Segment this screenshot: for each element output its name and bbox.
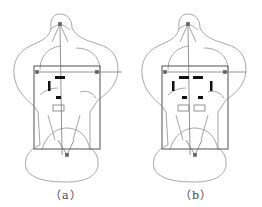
marker-right	[96, 71, 99, 74]
electrode-small-right	[198, 96, 203, 99]
electrode-outlined-right	[194, 105, 205, 111]
marker-bottom	[66, 154, 69, 157]
torso-outline	[142, 14, 246, 182]
panel-b-torso-diagram	[142, 14, 246, 182]
electrode-small-left	[182, 96, 187, 99]
electrode-horizontal	[55, 76, 65, 79]
electrode-outlined	[53, 105, 64, 111]
marker-left	[36, 71, 39, 74]
marker-left	[164, 71, 167, 74]
right-clavicle-line	[188, 24, 196, 42]
electrode-vertical-right	[210, 81, 213, 91]
electrode-small	[56, 96, 61, 99]
right-pec-curve	[204, 48, 228, 70]
panel-a-torso-diagram	[14, 14, 122, 182]
caption-a: （a）	[50, 186, 82, 202]
right-abdomen-line	[73, 115, 80, 140]
panel-b-electrodes	[172, 76, 213, 111]
pelvis-arc	[170, 128, 218, 150]
electrode-horizontal-left	[179, 76, 189, 79]
panel-a-markers	[36, 23, 99, 157]
lower-midline-right	[67, 140, 74, 155]
right-clavicle-line	[60, 24, 68, 42]
electrode-vertical-left	[172, 81, 175, 91]
left-clavicle-line	[52, 24, 60, 42]
lower-midline-left	[186, 140, 195, 155]
right-rib-curve	[208, 91, 224, 98]
panel-a-electrodes	[48, 76, 65, 111]
left-clavicle-line	[180, 24, 188, 42]
lower-midline-left	[58, 140, 67, 155]
pelvis-arc	[42, 128, 90, 150]
midline	[188, 24, 190, 155]
marker-top	[187, 23, 190, 26]
electrode-outlined-left	[178, 105, 189, 111]
marker-bottom	[194, 154, 197, 157]
figure-canvas	[0, 0, 262, 207]
right-pec-curve	[76, 48, 100, 70]
lower-midline-right	[195, 140, 202, 155]
caption-b: （b）	[180, 186, 212, 202]
right-abdomen-line	[201, 115, 208, 140]
electrode-vertical	[48, 81, 51, 91]
right-rib-curve	[80, 91, 96, 98]
midline	[60, 24, 62, 155]
torso-outline	[14, 14, 118, 182]
marker-top	[59, 23, 62, 26]
electrode-horizontal-right	[193, 76, 203, 79]
left-rib-curve	[168, 88, 186, 95]
marker-right	[224, 71, 227, 74]
